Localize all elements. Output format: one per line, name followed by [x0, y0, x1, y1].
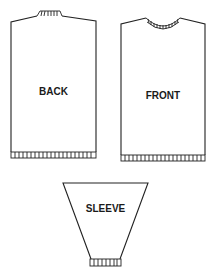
sleeve-outline: [63, 183, 148, 259]
front-neck-ribbing: [146, 18, 180, 29]
sweater-schematic: BACK FRONT SLEEVE: [0, 0, 211, 273]
front-bottom-ribbing: [121, 155, 205, 161]
front-label: FRONT: [146, 90, 180, 101]
sleeve-label: SLEEVE: [86, 203, 126, 214]
front-piece: FRONT: [121, 18, 205, 161]
back-outline: [11, 16, 96, 152]
back-bottom-ribbing: [11, 152, 96, 158]
front-outline: [121, 18, 205, 155]
sleeve-piece: SLEEVE: [63, 183, 148, 266]
back-label: BACK: [39, 86, 69, 97]
back-piece: BACK: [11, 11, 96, 158]
sleeve-cuff-ribbing: [90, 259, 121, 266]
back-neck-ribbing: [37, 11, 62, 16]
